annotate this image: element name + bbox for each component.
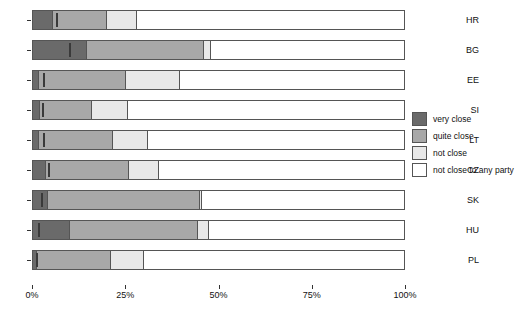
bar-segment: [202, 191, 404, 209]
y-axis-tick: [27, 140, 31, 141]
bar-segment: [111, 251, 144, 269]
bar-row: [32, 160, 405, 180]
bar-row: [32, 220, 405, 240]
y-axis-tick: [27, 260, 31, 261]
x-axis-label: 75%: [303, 290, 321, 300]
y-axis-tick: [27, 50, 31, 51]
bar-segment: [46, 161, 129, 179]
bar-segment: [33, 101, 40, 119]
bar-track: [32, 220, 405, 240]
x-axis-label: 100%: [393, 290, 416, 300]
legend-item-label: not close: [433, 148, 467, 158]
bar-segment: [129, 161, 159, 179]
bar-segment: [107, 11, 137, 29]
x-axis-label: 25%: [116, 290, 134, 300]
bar-track: [32, 10, 405, 30]
x-axis-label: 0%: [25, 290, 38, 300]
bar-row: [32, 40, 405, 60]
legend-swatch-icon: [412, 146, 427, 160]
bar-row: [32, 130, 405, 150]
bar-segment: [37, 251, 111, 269]
stacked-bar-chart: HRBGEESILTCZSKHUPL 0%25%50%75%100% very …: [0, 0, 517, 318]
x-axis-tick: [32, 285, 33, 289]
bar-segment: [209, 221, 404, 239]
bar-segment: [70, 221, 198, 239]
bar-segment: [40, 101, 92, 119]
legend-item[interactable]: very close: [412, 111, 514, 126]
bar-segment: [137, 11, 404, 29]
bar-segment: [128, 101, 404, 119]
y-axis-tick: [27, 230, 31, 231]
bar-segment: [148, 131, 404, 149]
x-axis-tick: [219, 285, 220, 289]
y-axis-label-ee: EE: [467, 70, 479, 90]
x-axis-tick: [125, 285, 126, 289]
legend-item-label: very close: [433, 114, 471, 124]
bar-row: [32, 10, 405, 30]
y-axis-label-bg: BG: [466, 40, 479, 60]
bar-segment: [211, 41, 404, 59]
bar-segment: [92, 101, 127, 119]
y-axis-label-hr: HR: [466, 10, 479, 30]
y-axis-tick: [27, 110, 31, 111]
chart-legend: very closequite closenot closenot close …: [412, 111, 514, 177]
bar-track: [32, 40, 405, 60]
x-axis-tick: [312, 285, 313, 289]
bar-segment: [159, 161, 404, 179]
legend-item-label: not close to any party: [433, 165, 514, 175]
bar-row: [32, 70, 405, 90]
bar-segment: [53, 11, 107, 29]
bar-track: [32, 250, 405, 270]
bar-segment: [33, 41, 87, 59]
y-axis-tick: [27, 200, 31, 201]
plot-area: [32, 10, 405, 282]
bar-segment: [33, 161, 46, 179]
legend-swatch-icon: [412, 163, 427, 177]
bar-segment: [180, 71, 404, 89]
x-axis-label: 50%: [209, 290, 227, 300]
bar-segment: [144, 251, 404, 269]
bar-row: [32, 100, 405, 120]
bar-segment: [204, 41, 211, 59]
bar-track: [32, 160, 405, 180]
legend-item[interactable]: not close to any party: [412, 162, 514, 177]
bar-segment: [39, 131, 113, 149]
bar-segment: [48, 191, 200, 209]
bar-track: [32, 100, 405, 120]
bar-row: [32, 250, 405, 270]
y-axis-label-pl: PL: [468, 250, 479, 270]
bar-segment: [33, 221, 70, 239]
legend-swatch-icon: [412, 129, 427, 143]
bar-segment: [87, 41, 204, 59]
legend-swatch-icon: [412, 112, 427, 126]
bar-segment: [33, 191, 48, 209]
bar-track: [32, 190, 405, 210]
y-axis-tick: [27, 20, 31, 21]
legend-item[interactable]: not close: [412, 145, 514, 160]
y-axis-label-hu: HU: [466, 220, 479, 240]
y-axis-tick: [27, 80, 31, 81]
y-axis-tick: [27, 170, 31, 171]
bar-segment: [33, 11, 53, 29]
bar-track: [32, 130, 405, 150]
bar-segment: [39, 71, 126, 89]
bar-segment: [113, 131, 148, 149]
y-axis-label-sk: SK: [467, 190, 479, 210]
legend-item[interactable]: quite close: [412, 128, 514, 143]
bar-track: [32, 70, 405, 90]
legend-item-label: quite close: [433, 131, 474, 141]
bar-row: [32, 190, 405, 210]
x-axis-tick: [405, 285, 406, 289]
bar-segment: [126, 71, 180, 89]
bar-segment: [198, 221, 209, 239]
